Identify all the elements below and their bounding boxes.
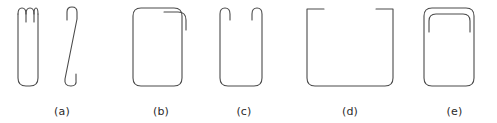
shape-b-overlap-hook — [164, 12, 186, 30]
wire-form-shapes-figure: (a) (b) (c) (d — [0, 0, 497, 123]
shape-d-wide-open-bracket-with-top-flanges — [288, 0, 412, 95]
figure-panel-b: (b) — [120, 0, 202, 123]
shape-a-bar-prong-outer — [34, 8, 38, 14]
shape-b-rectangle-outline — [133, 8, 182, 86]
figure-panel-c: (c) — [200, 0, 288, 123]
shape-e-rectangle-outline — [424, 8, 474, 86]
figure-panel-e: (e) — [412, 0, 497, 123]
shape-a-bar-outline — [18, 14, 38, 86]
shape-a-bar-prong-left — [18, 8, 26, 22]
shape-d-bracket-outline — [307, 9, 393, 86]
shape-a-straight-bar-and-slanted-s-hook-pair — [0, 0, 124, 95]
panel-d-caption: (d) — [288, 105, 412, 119]
shape-a-bar-prong-right — [26, 8, 34, 22]
panel-c-caption: (c) — [200, 105, 288, 119]
figure-panel-a: (a) — [0, 0, 124, 123]
shape-c-u-frame-outline — [220, 8, 262, 86]
figure-panel-d: (d) — [288, 0, 412, 123]
panel-b-caption: (b) — [120, 105, 202, 119]
shape-c-open-u-frame-with-inward-end-hooks — [200, 0, 288, 95]
shape-e-inner-arc — [429, 14, 470, 32]
panel-a-caption: (a) — [0, 105, 124, 119]
shape-b-closed-rounded-rectangle-with-overlap-hook — [120, 0, 202, 95]
shape-e-rounded-rectangle-with-nested-inner-arc — [412, 0, 497, 95]
shape-a-slanted-hook — [65, 7, 77, 86]
panel-e-caption: (e) — [412, 105, 497, 119]
